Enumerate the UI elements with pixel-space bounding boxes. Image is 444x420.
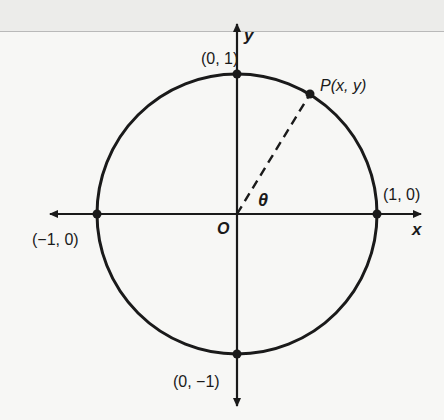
- point-top: [233, 70, 242, 79]
- point-bottom: [233, 350, 242, 359]
- label-left-point: (−1, 0): [32, 231, 79, 248]
- unit-circle-diagram: y x O (0, 1) (1, 0) (0, −1) (−1, 0) P(x,…: [0, 0, 444, 420]
- label-bottom-point: (0, −1): [173, 373, 220, 390]
- label-point-p: P(x, y): [320, 77, 366, 94]
- radius-to-p: [237, 94, 310, 214]
- p-coords: (x, y): [331, 77, 367, 94]
- angle-theta-label: θ: [258, 190, 268, 210]
- x-axis-label: x: [411, 220, 423, 239]
- p-name: P: [320, 77, 331, 94]
- origin-label: O: [217, 220, 230, 237]
- label-right-point: (1, 0): [383, 186, 420, 203]
- y-axis-label: y: [243, 26, 255, 45]
- label-top-point: (0, 1): [201, 50, 238, 67]
- point-p: [306, 90, 315, 99]
- point-left: [93, 210, 102, 219]
- point-right: [373, 210, 382, 219]
